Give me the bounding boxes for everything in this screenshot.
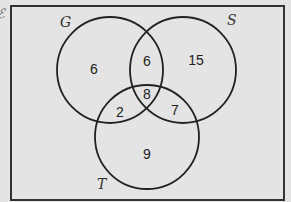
region-s-only: 15: [188, 52, 204, 68]
region-g-and-s-only: 6: [143, 53, 151, 69]
venn-svg: ℰ G S T 6 6 15 8 2 7 9: [0, 0, 291, 202]
region-g-and-t-only: 2: [116, 104, 124, 120]
region-g-s-t: 8: [143, 86, 151, 102]
region-t-only: 9: [143, 146, 151, 162]
set-g-circle: [57, 17, 163, 123]
set-t-label: T: [97, 176, 108, 192]
set-s-label: S: [227, 12, 237, 28]
region-s-and-t-only: 7: [171, 102, 179, 118]
region-g-only: 6: [90, 61, 98, 77]
venn-diagram: ℰ G S T 6 6 15 8 2 7 9: [0, 0, 291, 202]
set-g-label: G: [60, 14, 71, 30]
set-s-circle: [130, 17, 236, 123]
universal-set-label: ℰ: [0, 6, 6, 21]
universal-set-rectangle: [11, 6, 284, 200]
